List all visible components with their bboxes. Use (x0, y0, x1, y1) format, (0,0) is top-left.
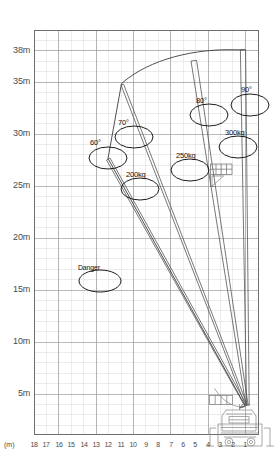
x-tick-3: 3 (213, 441, 227, 448)
x-tick-5: 5 (188, 441, 202, 448)
load-250kg-label: 250kg (176, 151, 195, 160)
y-tick-15m: 15m (0, 284, 30, 294)
x-tick-10: 10 (126, 441, 140, 448)
y-tick-30m: 30m (0, 128, 30, 138)
angle-90-label: 90° (241, 85, 252, 94)
callout-ellipse-90 (231, 94, 269, 116)
callout-ellipse-danger (79, 270, 121, 292)
callout-ellipse-250kg (171, 159, 209, 181)
x-axis-unit: (m) (4, 441, 15, 448)
grid-minor (34, 30, 258, 434)
callout-ellipse-200kg (121, 178, 159, 200)
callout-ellipse-70 (115, 126, 153, 148)
x-tick-15: 15 (64, 441, 78, 448)
angle-80-label: 80° (196, 96, 207, 105)
angle-60-label: 60° (90, 138, 101, 147)
x-tick-17: 17 (39, 441, 53, 448)
chart-canvas (0, 0, 279, 473)
y-tick-20m: 20m (0, 232, 30, 242)
boom-80deg (191, 60, 248, 406)
crane-range-diagram: 38m 35m 30m 25m 20m 15m 10m 5m (m) 18 17… (0, 0, 279, 473)
load-300kg-label: 300kg (225, 128, 244, 137)
y-tick-10m: 10m (0, 336, 30, 346)
y-tick-38m: 38m (0, 45, 30, 55)
x-tick-8: 8 (151, 441, 165, 448)
x-tick-1: 1 (238, 441, 252, 448)
x-tick-12: 12 (101, 441, 115, 448)
y-tick-35m: 35m (0, 76, 30, 86)
angle-70-label: 70° (118, 118, 129, 127)
y-tick-25m: 25m (0, 180, 30, 190)
danger-zone-label: Danger (78, 264, 100, 271)
load-200kg-label: 200kg (126, 170, 145, 179)
y-tick-5m: 5m (0, 388, 30, 398)
